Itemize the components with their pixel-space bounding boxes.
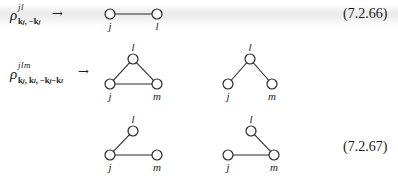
node-label-l: l [248, 41, 251, 53]
node-label-m: m [153, 161, 161, 173]
node-j [223, 150, 233, 160]
graph-diagrams: jlljmljmljmljm [0, 0, 398, 190]
node-m [152, 150, 162, 160]
node-label-j: j [224, 161, 229, 173]
edge-j-l [113, 135, 129, 152]
node-j [105, 79, 115, 89]
graph-7-2-66-0: jl [105, 9, 162, 32]
node-label-m: m [270, 161, 278, 173]
node-l [152, 9, 162, 19]
node-l [128, 126, 138, 136]
node-label-l: l [131, 41, 134, 53]
node-label-j: j [106, 20, 111, 32]
edge-l-m [136, 63, 153, 81]
graph-7-2-67-0: ljm [105, 41, 162, 102]
node-j [105, 150, 115, 160]
node-j [105, 9, 115, 19]
node-label-j: j [106, 90, 111, 102]
node-label-m: m [153, 90, 161, 102]
node-l [245, 54, 255, 64]
graph-7-2-67-3: ljm [223, 113, 279, 173]
node-label-j: j [224, 90, 229, 102]
graph-7-2-67-1: ljm [223, 41, 277, 102]
node-label-j: j [106, 161, 111, 173]
node-label-m: m [268, 90, 276, 102]
edge-j-l [113, 63, 129, 81]
node-m [269, 150, 279, 160]
edge-l-m [253, 63, 268, 80]
graph-7-2-67-2: ljm [105, 113, 162, 173]
node-l [246, 126, 256, 136]
edge-j-l [231, 63, 246, 80]
edge-l-m [254, 135, 270, 152]
node-m [267, 79, 277, 89]
node-label-l: l [249, 113, 252, 125]
node-l [128, 54, 138, 64]
node-label-l: l [131, 113, 134, 125]
node-j [223, 79, 233, 89]
node-label-l: l [155, 20, 158, 32]
node-m [152, 79, 162, 89]
